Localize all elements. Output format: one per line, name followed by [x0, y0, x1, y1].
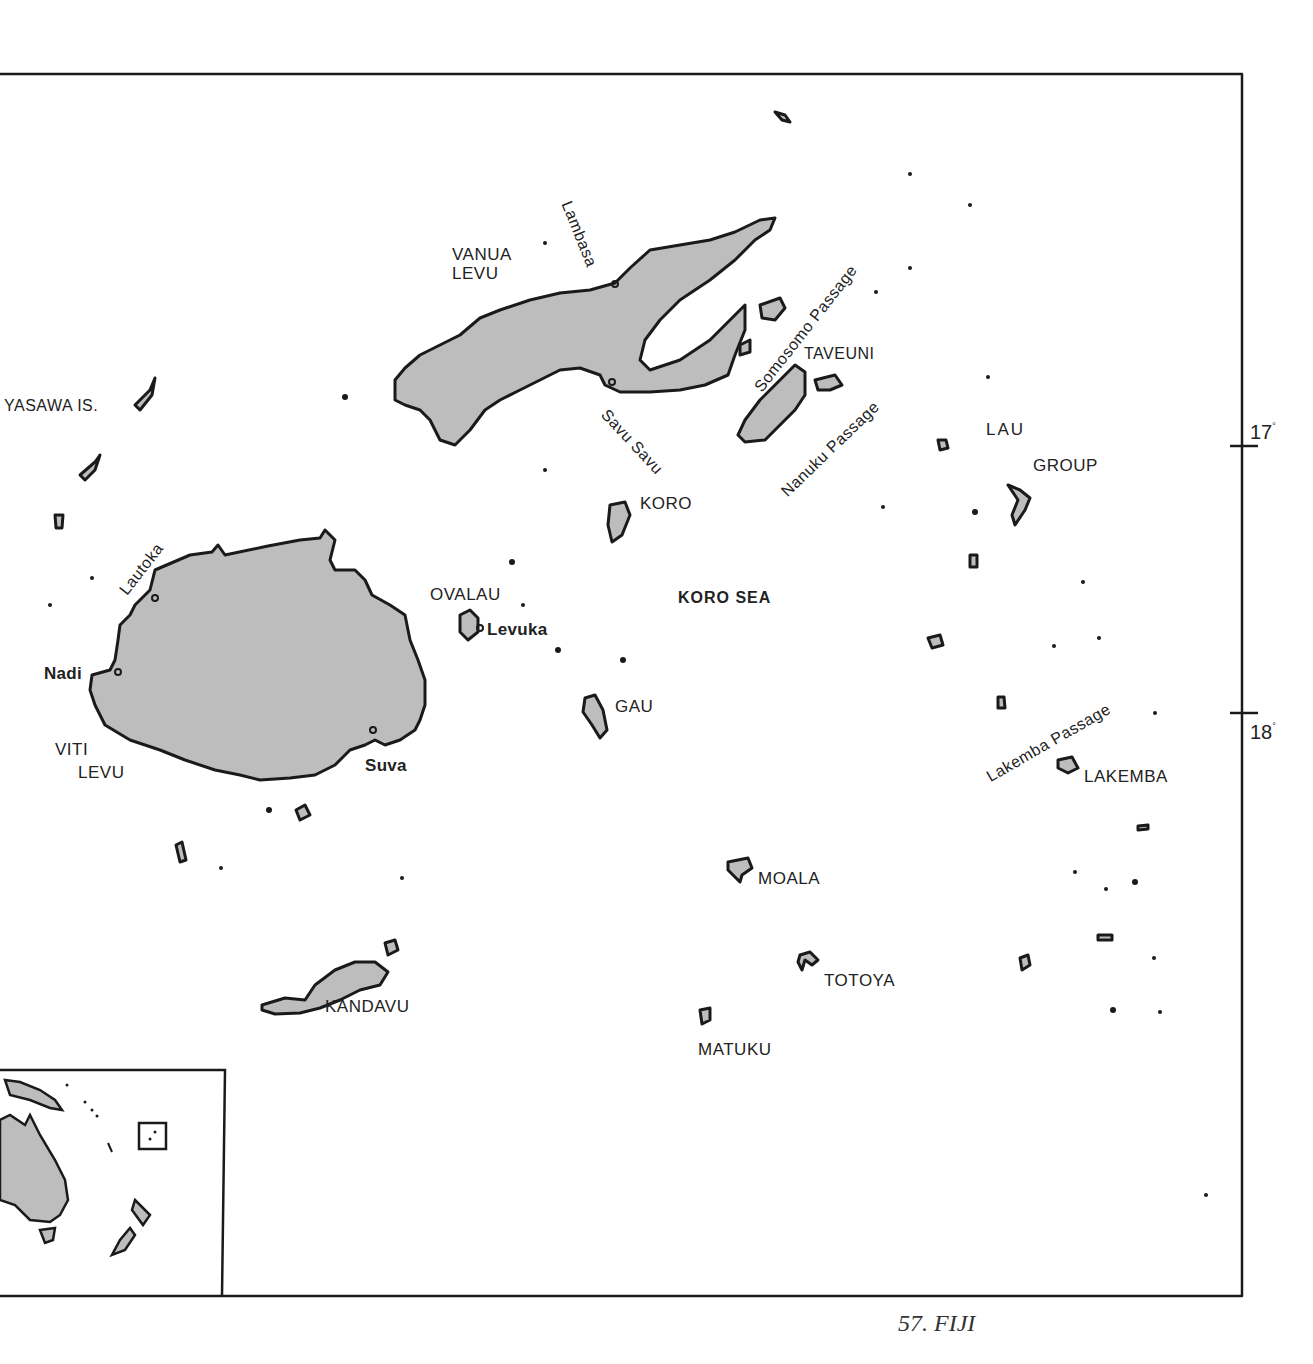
- label-vanua-levu-2: LEVU: [452, 265, 498, 282]
- inset-tasmania: [40, 1228, 55, 1243]
- label-vanua-levu-1: VANUA: [452, 246, 512, 263]
- label-ovalau: OVALAU: [430, 586, 501, 603]
- label-nadi: Nadi: [44, 665, 82, 682]
- label-gau: GAU: [615, 698, 653, 715]
- figure-caption: 57. FIJI: [898, 1310, 975, 1337]
- inset-new-guinea: [5, 1080, 62, 1110]
- label-totoya: TOTOYA: [824, 972, 895, 989]
- lat-label-18: 18°: [1250, 722, 1276, 742]
- lakemba-island: [1058, 757, 1078, 773]
- koro-island: [608, 502, 630, 542]
- label-koro-sea: KORO SEA: [678, 590, 771, 606]
- map-canvas: [0, 0, 1313, 1364]
- label-viti-levu-1: VITI: [55, 741, 88, 758]
- moala-island: [728, 858, 752, 882]
- gau-island: [583, 695, 607, 738]
- inset-new-zealand: [112, 1200, 150, 1255]
- lau-islands: [1008, 485, 1030, 525]
- label-levuka: Levuka: [487, 621, 547, 638]
- inset-fiji-box: [139, 1123, 166, 1149]
- label-lau-1: LAU: [986, 421, 1025, 438]
- label-matuku: MATUKU: [698, 1041, 772, 1058]
- label-yasawa: YASAWA IS.: [4, 398, 98, 414]
- ovalau-island: [460, 610, 478, 640]
- matuku-island: [700, 1008, 710, 1024]
- label-viti-levu-2: LEVU: [78, 764, 124, 781]
- inset-australia: [0, 1115, 68, 1222]
- label-kandavu: KANDAVU: [325, 998, 409, 1015]
- label-moala: MOALA: [758, 870, 820, 887]
- label-koro: KORO: [640, 495, 692, 512]
- totoya-island: [798, 952, 818, 970]
- yasawa-islands: [80, 455, 100, 480]
- label-suva: Suva: [365, 757, 407, 774]
- label-lakemba: LAKEMBA: [1084, 768, 1168, 785]
- label-taveuni: TAVEUNI: [804, 346, 874, 362]
- label-lau-2: GROUP: [1033, 457, 1098, 474]
- lat-label-17: 17°: [1250, 422, 1276, 442]
- locator-inset: [0, 1070, 225, 1296]
